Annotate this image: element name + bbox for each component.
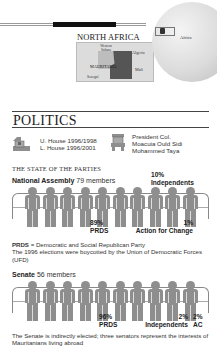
national-assembly-name: National Assembly [12,177,74,184]
parties-title: THE STATE OF THE PARTIES [12,165,101,172]
na-independents-label: 10% Independents [151,171,194,186]
national-assembly-members: 79 members [76,177,115,184]
sen-ac-name: AC [193,321,203,329]
sen-ac-label: 2% AC [193,313,203,328]
sen-ac-pct: 2% [193,313,203,321]
senate-name: Senate [12,271,35,278]
president-line-3: Mohammed Taya [132,147,179,154]
map-label-mali: Mali [135,67,143,72]
map-label-senegal: Senegal [87,75,98,79]
senate-title: Senate 56 members [12,271,76,278]
na-prds-label: 89% PRDS [90,219,108,234]
parliament-icon [13,137,30,151]
member-figure-icon [42,281,60,321]
region-title: NORTH AFRICA [77,32,140,42]
na-ac-name: Action for Change [128,227,193,235]
map-label-mauritania: MAURITANIA [90,64,117,69]
member-figure-icon [42,187,60,227]
president-line-2: Moacuia Ould Sidi [132,140,182,147]
globe-label: Africa [180,35,192,40]
header-accent-bar [53,22,116,27]
globe-icon [152,2,217,82]
na-independents-pct: 10% [151,171,194,179]
na-prds-pct: 89% [90,219,108,227]
sen-independents-pct: 2% [140,313,188,321]
upper-house-elections: U. House 1996/1998 [40,137,97,144]
member-figure-icon [24,187,42,227]
na-independents-name: Independents [151,179,194,187]
section-rule-top [12,111,209,112]
prds-note-text: = Democratic and Social Republican Party [29,241,145,248]
lower-house-elections: L. House 1996/2001 [40,144,96,151]
member-figure-icon [59,281,77,321]
map-label-algeria: Algeria [132,50,145,55]
sen-prds-pct: 96% [99,313,117,321]
sen-prds-name: PRDS [99,321,117,329]
sen-independents-name: Independents [140,321,188,329]
na-ac-pct: 1% [128,219,193,227]
section-rule-bottom [12,127,209,128]
prds-note: PRDS = Democratic and Social Republican … [12,241,212,263]
globe-locator-box [155,27,175,36]
national-assembly-title: National Assembly 79 members [12,177,115,184]
globe-country-marker [160,28,165,34]
member-figure-icon [77,281,95,321]
na-ac-label: 1% Action for Change [128,219,193,234]
president-chair-icon [111,134,125,151]
locator-map: Western Sahara Algeria MAURITANIA Mali S… [76,42,154,82]
sen-independents-label: 2% Independents [140,313,188,328]
senate-members: 56 members [37,271,76,278]
sen-prds-label: 96% PRDS [99,313,117,328]
member-figure-icon [59,187,77,227]
prds-note-key: PRDS [12,241,29,248]
map-label-western-sahara: Western Sahara [96,44,116,52]
senate-note: The Senate is indirectly elected; three … [12,332,212,347]
member-figure-icon [112,187,130,227]
president-line-1: President Col. [132,133,171,140]
boycott-note: The 1996 elections were boycotted by the… [12,248,202,262]
member-figure-icon [24,281,42,321]
na-prds-name: PRDS [90,227,108,235]
